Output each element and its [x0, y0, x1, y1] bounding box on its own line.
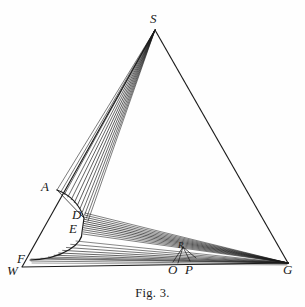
point-label-o: O — [168, 263, 177, 276]
point-label-a: A — [41, 180, 49, 193]
point-label-w: W — [7, 264, 18, 277]
point-label-f: F — [17, 252, 25, 265]
ray-fan-from-s — [57, 30, 155, 221]
figure-caption: Fig. 3. — [0, 286, 305, 301]
point-label-r: R — [178, 241, 184, 250]
point-label-g: G — [283, 263, 292, 276]
baseline-wg — [22, 263, 288, 267]
point-label-e: E — [69, 222, 77, 235]
figure-container: S A D E F W O P G R Fig. 3. — [0, 0, 305, 307]
point-label-s: S — [150, 12, 157, 25]
figure-drawing — [0, 0, 305, 307]
point-label-p: P — [185, 263, 193, 276]
point-label-d: D — [72, 208, 81, 221]
